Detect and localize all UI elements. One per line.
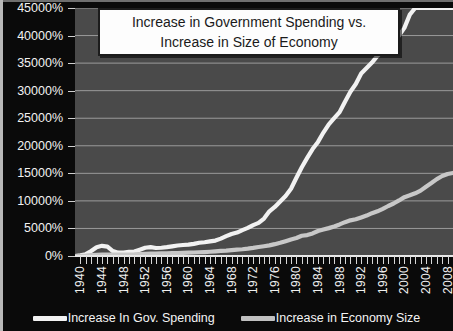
y-axis-label: 10000% bbox=[17, 195, 63, 208]
x-axis-tick bbox=[145, 256, 146, 264]
x-axis-tick bbox=[259, 256, 260, 264]
x-axis-tick bbox=[226, 256, 227, 264]
legend-label: Increase In Gov. Spending bbox=[68, 312, 215, 325]
x-axis-tick bbox=[383, 256, 384, 264]
y-axis-label: 35000% bbox=[17, 57, 63, 70]
x-axis-tick bbox=[86, 256, 87, 264]
x-axis-tick bbox=[232, 256, 233, 264]
x-axis-tick bbox=[205, 256, 206, 264]
x-axis-tick bbox=[91, 256, 92, 264]
x-axis-tick bbox=[399, 256, 400, 264]
x-axis-tick bbox=[248, 256, 249, 264]
x-axis-tick bbox=[442, 256, 443, 264]
x-axis-tick bbox=[242, 256, 243, 264]
x-axis-tick bbox=[210, 256, 211, 264]
x-axis-tick bbox=[140, 256, 141, 264]
x-axis-tick bbox=[134, 256, 135, 264]
x-axis-tick bbox=[313, 256, 314, 264]
x-axis-tick bbox=[264, 256, 265, 264]
x-axis-tick bbox=[421, 256, 422, 264]
x-axis-tick bbox=[118, 256, 119, 264]
x-axis-tick bbox=[415, 256, 416, 264]
x-axis-tick bbox=[161, 256, 162, 264]
y-axis-label: 30000% bbox=[17, 84, 63, 97]
x-axis-label: 2000 bbox=[398, 266, 410, 294]
x-axis-tick bbox=[356, 256, 357, 264]
x-axis-tick bbox=[194, 256, 195, 264]
x-axis-tick bbox=[345, 256, 346, 264]
x-axis-tick bbox=[291, 256, 292, 264]
x-axis-tick bbox=[307, 256, 308, 264]
x-axis-tick bbox=[334, 256, 335, 264]
chart-legend: Increase In Gov. SpendingIncrease in Eco… bbox=[0, 306, 453, 331]
y-axis-label: 40000% bbox=[17, 29, 63, 42]
x-axis-label: 1980 bbox=[290, 266, 302, 294]
x-axis-tick bbox=[340, 256, 341, 264]
legend-label: Increase in Economy Size bbox=[276, 312, 421, 325]
x-axis-tick bbox=[318, 256, 319, 264]
x-axis-tick bbox=[124, 256, 125, 264]
x-axis-tick bbox=[97, 256, 98, 264]
x-axis-tick bbox=[410, 256, 411, 264]
x-axis-tick bbox=[323, 256, 324, 264]
y-axis: 45000%40000%35000%30000%25000%20000%1500… bbox=[0, 0, 72, 264]
x-axis-tick bbox=[172, 256, 173, 264]
x-axis-label: 1972 bbox=[247, 266, 259, 294]
x-axis-tick bbox=[361, 256, 362, 264]
x-axis-tick bbox=[102, 256, 103, 264]
legend-item[interactable]: Increase in Economy Size bbox=[241, 312, 421, 325]
x-axis-label: 1964 bbox=[204, 266, 216, 294]
x-axis-tick bbox=[113, 256, 114, 264]
x-axis-labels: 1940194419481952195619601964196819721976… bbox=[75, 266, 453, 306]
x-axis-tick bbox=[372, 256, 373, 264]
chart-title-line-1: Increase in Government Spending vs. bbox=[132, 12, 366, 32]
x-axis-label: 1968 bbox=[226, 266, 238, 294]
x-axis-tick bbox=[183, 256, 184, 264]
x-axis-label: 1948 bbox=[118, 266, 130, 294]
x-axis-tick bbox=[156, 256, 157, 264]
x-axis-label: 1940 bbox=[74, 266, 86, 294]
x-axis-tick bbox=[296, 256, 297, 264]
x-axis-tick bbox=[426, 256, 427, 264]
series-line bbox=[75, 173, 453, 256]
x-axis-tick bbox=[275, 256, 276, 264]
x-axis-tick bbox=[188, 256, 189, 264]
x-axis-ticks bbox=[75, 256, 453, 265]
x-axis-label: 1952 bbox=[139, 266, 151, 294]
y-axis-label: 0% bbox=[45, 250, 63, 263]
x-axis-tick bbox=[129, 256, 130, 264]
x-axis-tick bbox=[448, 256, 449, 264]
x-axis-label: 2004 bbox=[420, 266, 432, 294]
x-axis-tick bbox=[329, 256, 330, 264]
x-axis-tick bbox=[302, 256, 303, 264]
x-axis-label: 1944 bbox=[96, 266, 108, 294]
legend-item[interactable]: Increase In Gov. Spending bbox=[33, 312, 215, 325]
x-axis-tick bbox=[394, 256, 395, 264]
legend-swatch-icon bbox=[33, 316, 67, 321]
x-axis-label: 1956 bbox=[161, 266, 173, 294]
y-axis-label: 45000% bbox=[17, 2, 63, 15]
x-axis-tick bbox=[80, 256, 81, 264]
x-axis-label: 1984 bbox=[312, 266, 324, 294]
x-axis-tick bbox=[388, 256, 389, 264]
x-axis-tick bbox=[280, 256, 281, 264]
chart-container: 45000%40000%35000%30000%25000%20000%1500… bbox=[0, 0, 453, 331]
y-axis-label: 25000% bbox=[17, 112, 63, 125]
x-axis-label: 1960 bbox=[182, 266, 194, 294]
x-axis-tick bbox=[107, 256, 108, 264]
x-axis-tick bbox=[367, 256, 368, 264]
x-axis-tick bbox=[286, 256, 287, 264]
x-axis-tick bbox=[215, 256, 216, 264]
x-axis-tick bbox=[431, 256, 432, 264]
x-axis-tick bbox=[178, 256, 179, 264]
x-axis-label: 1992 bbox=[355, 266, 367, 294]
x-axis-label: 1976 bbox=[269, 266, 281, 294]
y-axis-label: 15000% bbox=[17, 167, 63, 180]
x-axis-tick bbox=[377, 256, 378, 264]
x-axis-label: 1996 bbox=[377, 266, 389, 294]
x-axis-tick bbox=[350, 256, 351, 264]
x-axis-tick bbox=[237, 256, 238, 264]
y-axis-label: 5000% bbox=[24, 222, 63, 235]
x-axis-label: 1988 bbox=[334, 266, 346, 294]
x-axis-tick bbox=[221, 256, 222, 264]
